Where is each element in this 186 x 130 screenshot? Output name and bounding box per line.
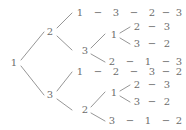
node-level1-top: 2 <box>47 27 53 37</box>
edge-top-inner1-to-3 <box>120 38 130 44</box>
leaf-bot-r4-c1: 3 <box>109 116 115 126</box>
dash-bot-r1-1: − <box>94 67 102 77</box>
edge-2sub-to-3 <box>91 113 105 121</box>
dash-bot-r2: − <box>148 80 156 90</box>
dash-bot-r4-2: − <box>162 116 170 126</box>
dash-bot-r3: − <box>148 97 156 107</box>
edge-3sub-to-1 <box>91 34 105 48</box>
dash-bot-r1-2: − <box>130 67 138 77</box>
leaf-top-r1-c2: 3 <box>113 8 119 18</box>
leaf-top-r3-a1: 3 <box>134 39 140 49</box>
dash-bot-r4-1: − <box>126 116 134 126</box>
dash-top-r2: − <box>148 22 156 32</box>
leaf-bot-r1-c2: 2 <box>113 67 119 77</box>
edge-3sub-to-2 <box>91 54 105 62</box>
edge-bot-inner1-to-2 <box>120 85 130 91</box>
leaf-bot-r2-a1: 2 <box>134 80 140 90</box>
leaf-top-r2-a2: 3 <box>164 22 170 32</box>
leaf-top-r3-a2: 2 <box>164 39 170 49</box>
edge-2-to-top-row1 <box>57 13 72 28</box>
leaf-top-r1-c4: 3 <box>176 8 182 18</box>
leaf-bot-r2-a2: 3 <box>164 80 170 90</box>
node-root: 1 <box>11 58 17 68</box>
dash-top-r3: − <box>148 39 156 49</box>
dash-top-r1-1: − <box>94 8 102 18</box>
node-level1-bottom: 3 <box>47 90 53 100</box>
dash-top-r1-3: − <box>162 8 170 18</box>
edge-root-to-2 <box>21 32 44 60</box>
leaf-bot-r3-a2: 2 <box>164 97 170 107</box>
leaf-top-r1-c3: 2 <box>149 8 155 18</box>
edge-3-to-bot-row1 <box>57 72 72 91</box>
dash-bot-r1-3: − <box>162 67 170 77</box>
node-top-inner-1: 1 <box>111 30 117 40</box>
leaf-bot-r4-c3: 2 <box>176 116 182 126</box>
node-top-3sub: 3 <box>82 46 88 56</box>
edge-top-inner1-to-2 <box>120 27 130 33</box>
permutation-tree-diagram: 1 2 3 1 − 3 − 2 − 3 3 1 2 − 3 3 − 2 2 − … <box>0 0 186 130</box>
edge-3-to-2sub <box>57 99 72 110</box>
dash-top-r1-2: − <box>130 8 138 18</box>
leaf-bot-r1-c1: 1 <box>77 67 83 77</box>
leaf-bot-r1-c3: 3 <box>149 67 155 77</box>
edge-2sub-to-1 <box>91 92 105 107</box>
tree-edges <box>0 0 186 130</box>
edge-bot-inner1-to-3 <box>120 96 130 102</box>
node-bot-inner-1: 1 <box>111 88 117 98</box>
node-bot-2sub: 2 <box>82 105 88 115</box>
edge-root-to-3 <box>21 66 44 95</box>
leaf-bot-r1-c4: 2 <box>176 67 182 77</box>
leaf-bot-r4-c2: 1 <box>145 116 151 126</box>
leaf-bot-r3-a1: 3 <box>134 97 140 107</box>
edge-2-to-3sub <box>57 36 72 50</box>
leaf-top-r2-a1: 2 <box>134 22 140 32</box>
leaf-top-r1-c1: 1 <box>77 8 83 18</box>
